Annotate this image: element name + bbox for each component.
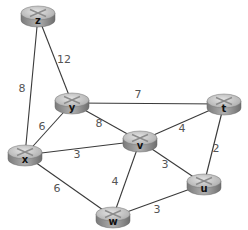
router-node-z: z	[21, 6, 55, 27]
router-node-v: v	[123, 131, 157, 152]
edge-weight-w-u: 3	[154, 203, 161, 216]
edge-weight-z-y: 12	[57, 53, 71, 66]
edge-weight-z-x: 8	[19, 82, 26, 95]
node-label-y: y	[69, 102, 76, 113]
node-label-t: t	[222, 103, 227, 114]
network-graph: 8127683643423 zytxvuw	[0, 0, 248, 230]
edge-weight-y-t: 7	[135, 88, 142, 101]
edge-weight-y-v: 8	[96, 117, 103, 130]
edge-y-t	[72, 103, 224, 104]
edge-weight-v-t: 4	[179, 122, 186, 135]
router-node-u: u	[187, 174, 221, 195]
router-node-w: w	[96, 207, 130, 228]
router-node-t: t	[207, 94, 241, 115]
edge-weight-v-w: 4	[112, 175, 119, 188]
edge-x-w	[25, 155, 113, 217]
edge-weight-v-u: 3	[162, 158, 169, 171]
edge-z-x	[25, 16, 38, 155]
edge-weight-x-v: 3	[74, 148, 81, 161]
node-label-z: z	[35, 15, 41, 26]
node-label-u: u	[200, 183, 207, 194]
node-label-w: w	[108, 216, 117, 227]
node-label-x: x	[22, 154, 29, 165]
node-label-v: v	[137, 140, 144, 151]
router-node-x: x	[8, 145, 42, 166]
edge-weight-x-w: 6	[54, 182, 61, 195]
edge-weight-t-u: 2	[213, 142, 220, 155]
edge-weight-y-x: 6	[39, 120, 46, 133]
router-node-y: y	[55, 93, 89, 114]
